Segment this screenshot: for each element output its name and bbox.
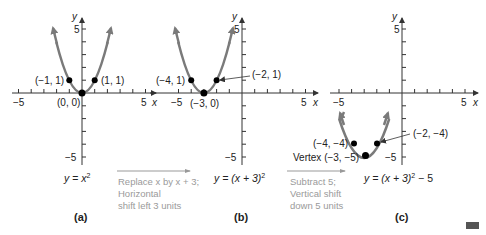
y-axis-label: y xyxy=(231,11,238,22)
point xyxy=(92,77,98,83)
x-axis-label: x xyxy=(312,97,319,108)
point-label: (1, 1) xyxy=(101,75,124,86)
y-min-tick-label: −5 xyxy=(225,152,237,163)
point xyxy=(214,77,220,83)
point xyxy=(66,77,72,83)
y-max-tick-label: 5 xyxy=(394,24,400,35)
x-max-tick-label: 5 xyxy=(461,97,467,108)
point xyxy=(79,90,86,97)
transform-vertical-shift: Subtract 5; Vertical shift down 5 units xyxy=(287,171,345,211)
point xyxy=(188,77,194,83)
y-max-tick-label: 5 xyxy=(74,24,80,35)
y-min-tick-label: −5 xyxy=(65,152,77,163)
caption-c: (c) xyxy=(395,211,409,223)
caption-b: (b) xyxy=(234,211,248,223)
x-min-tick-label: −5 xyxy=(171,97,183,108)
x-max-tick-label: 5 xyxy=(141,97,147,108)
point xyxy=(351,141,357,147)
transform-text: Subtract 5; xyxy=(290,176,336,187)
point-label: (−4, −4) xyxy=(313,138,348,149)
point xyxy=(362,152,369,159)
x-axis-label: x xyxy=(151,97,158,108)
equation: y = (x + 3)2 xyxy=(213,172,265,184)
leader-arrow-icon xyxy=(381,134,410,142)
curve-arrow-left xyxy=(53,28,57,44)
curve-arrow-right xyxy=(229,28,233,44)
x-max-tick-label: 5 xyxy=(301,97,307,108)
caption-a: (a) xyxy=(74,211,88,223)
transform-text: Horizontal xyxy=(118,188,161,199)
leader-arrow-icon xyxy=(220,76,250,80)
y-axis-label: y xyxy=(71,11,78,22)
end-marker-icon xyxy=(466,222,479,229)
equation: y = (x + 3)2 − 5 xyxy=(363,172,433,184)
point-label: (−4, 1) xyxy=(156,75,185,86)
curve-arrow-left xyxy=(175,28,179,44)
y-axis-label: y xyxy=(391,11,398,22)
point-label: (0, 0) xyxy=(57,97,80,108)
point-label: (−3, 0) xyxy=(190,98,219,109)
point-label: (−1, 1) xyxy=(35,75,64,86)
parabola-transformations-figure: (−1, 1) (1, 1) (0, 0) −5 5 x y 5 −5 y = … xyxy=(0,0,486,235)
parabola-curve xyxy=(178,42,229,93)
point xyxy=(374,141,380,147)
point xyxy=(200,90,207,97)
transform-text: shift left 3 units xyxy=(118,200,182,211)
transform-horizontal-shift: Replace x by x + 3; Horizontal shift lef… xyxy=(117,171,199,211)
x-min-tick-label: −5 xyxy=(333,97,345,108)
point-label: (−2, 1) xyxy=(252,69,281,80)
transform-text: Vertical shift xyxy=(290,188,342,199)
y-max-tick-label: 5 xyxy=(234,24,240,35)
point-label: (−2, −4) xyxy=(413,128,448,139)
x-min-tick-label: −5 xyxy=(13,97,25,108)
point-label: Vertex (−3, −5) xyxy=(293,152,359,163)
x-axis-label: x xyxy=(472,97,479,108)
y-min-tick-label: −5 xyxy=(385,152,397,163)
curve-arrow-right xyxy=(107,28,111,44)
transform-text: Replace x by x + 3; xyxy=(118,176,199,187)
equation: y = x2 xyxy=(63,172,90,184)
transform-text: down 5 units xyxy=(290,200,344,211)
